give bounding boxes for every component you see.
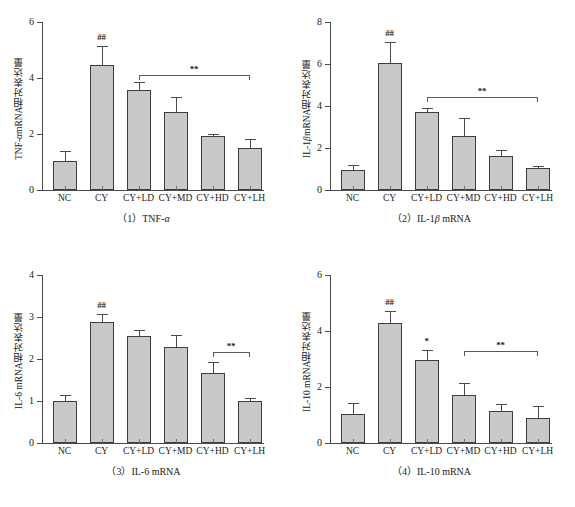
x-axis-tick [538,186,539,190]
error-bar-cap [348,165,359,166]
x-axis-tick [65,186,66,190]
y-axis-tick-label: 4 [317,101,322,111]
x-axis-tick [353,186,354,190]
x-axis-label-cy-hd: CY+HD [196,447,228,457]
bar-cy-md [452,136,476,190]
x-axis-tick [427,186,428,190]
error-bar [102,46,103,65]
bar-cy-ld [415,112,439,190]
x-axis-label-cy-md: CY+MD [447,447,481,457]
error-bar-cap [134,82,145,83]
plot-area: 01234NCCYCY+LDCY+MDCY+HDCY+LH##** [42,275,264,443]
bracket-significance-label: ** [190,64,198,74]
error-bar-cap [533,406,544,407]
y-axis-tick [325,106,330,107]
panel-caption: （4）IL-10 mRNA [288,467,575,477]
bar-cy-md [452,395,476,443]
error-bar-cap [348,403,359,404]
x-axis-tick [390,439,391,443]
y-axis-tick-label: 2 [317,143,322,153]
error-bar [139,82,140,90]
y-axis-tick-label: 6 [317,270,322,280]
x-axis-tick [353,439,354,443]
y-axis-tick [325,387,330,388]
x-axis-label-nc: NC [346,447,359,457]
panel-caption: （3）IL-6 mRNA [0,467,287,477]
error-bar [390,311,391,323]
x-axis-line [42,443,264,444]
x-axis-tick [213,439,214,443]
bar-cy-ld [127,90,151,190]
x-axis-label-nc: NC [58,194,71,204]
error-bar-cap [97,314,108,315]
x-axis-tick [250,439,251,443]
y-axis-line [42,275,43,443]
y-axis-tick [37,190,42,191]
y-axis-tick-label: 2 [29,354,34,364]
bar-cy [378,323,402,443]
plot-area: 02468NCCYCY+LDCY+MDCY+HDCY+LH##** [330,22,552,190]
x-axis-tick [139,439,140,443]
chart-panel-2: IL-1β mRNA相对表达量02468NCCYCY+LDCY+MDCY+HDC… [288,0,575,253]
x-axis-label-cy-lh: CY+LH [522,447,553,457]
y-axis-tick [325,275,330,276]
bar-cy-hd [201,373,225,443]
y-axis-tick-label: 0 [29,185,34,195]
error-bar-cap [422,108,433,109]
bar-cy [90,322,114,443]
y-axis-tick-label: 2 [317,382,322,392]
bracket-right-tick [537,351,538,356]
error-bar [65,151,66,162]
y-axis-tick-label: 0 [29,438,34,448]
x-axis-tick [65,439,66,443]
y-axis-tick-label: 6 [317,59,322,69]
x-axis-label-cy: CY [383,194,396,204]
x-axis-label-nc: NC [58,447,71,457]
panel-caption-number: （2） [392,213,417,224]
x-axis-label-cy-hd: CY+HD [484,194,516,204]
y-axis-title-symbol: α [15,134,25,139]
bracket-line [464,351,538,352]
y-axis-tick [325,443,330,444]
x-axis-tick [390,186,391,190]
bar-cy-ld [127,336,151,443]
x-axis-tick [501,186,502,190]
y-axis-title-suffix: mRNA相对表达量 [303,58,313,135]
error-bar-cap [459,118,470,119]
bracket-line [427,97,538,98]
error-bar-cap [208,362,219,363]
y-axis-title-symbol: β [303,136,313,141]
x-axis-tick [250,186,251,190]
error-bar [390,42,391,63]
x-axis-label-cy-md: CY+MD [447,194,481,204]
y-axis-tick [37,317,42,318]
figure-panel-grid: TNF-α mRNA相对表达量0246NCCYCY+LDCY+MDCY+HDCY… [0,0,575,507]
bar-cy-md [164,347,188,443]
y-axis-title-prefix: IL-1 [303,141,313,158]
y-axis-title-prefix: TNF- [15,139,25,160]
x-axis-label-cy-hd: CY+HD [484,447,516,457]
x-axis-label-cy: CY [383,447,396,457]
y-axis-title: IL-10 mRNA相对表达量 [300,281,316,441]
y-axis-line [42,22,43,190]
panel-caption: （1）TNF-α [0,214,287,224]
y-axis-tick [37,275,42,276]
bar-cy-hd [201,136,225,190]
significance-marker: ## [97,33,105,42]
x-axis-tick [464,186,465,190]
error-bar [213,362,214,373]
bracket-left-tick [213,352,214,357]
error-bar [250,139,251,148]
panel-caption-number: （1） [117,213,142,224]
x-axis-tick [538,439,539,443]
panel-caption-main: IL-1 [417,213,435,224]
bracket-left-tick [464,351,465,356]
x-axis-tick [139,186,140,190]
bracket-right-tick [537,97,538,102]
y-axis-tick [37,443,42,444]
y-axis-title-suffix: mRNA相对表达量 [15,56,25,133]
x-axis-line [42,190,264,191]
y-axis-tick-label: 8 [317,17,322,27]
error-bar [501,404,502,412]
y-axis-tick [325,148,330,149]
